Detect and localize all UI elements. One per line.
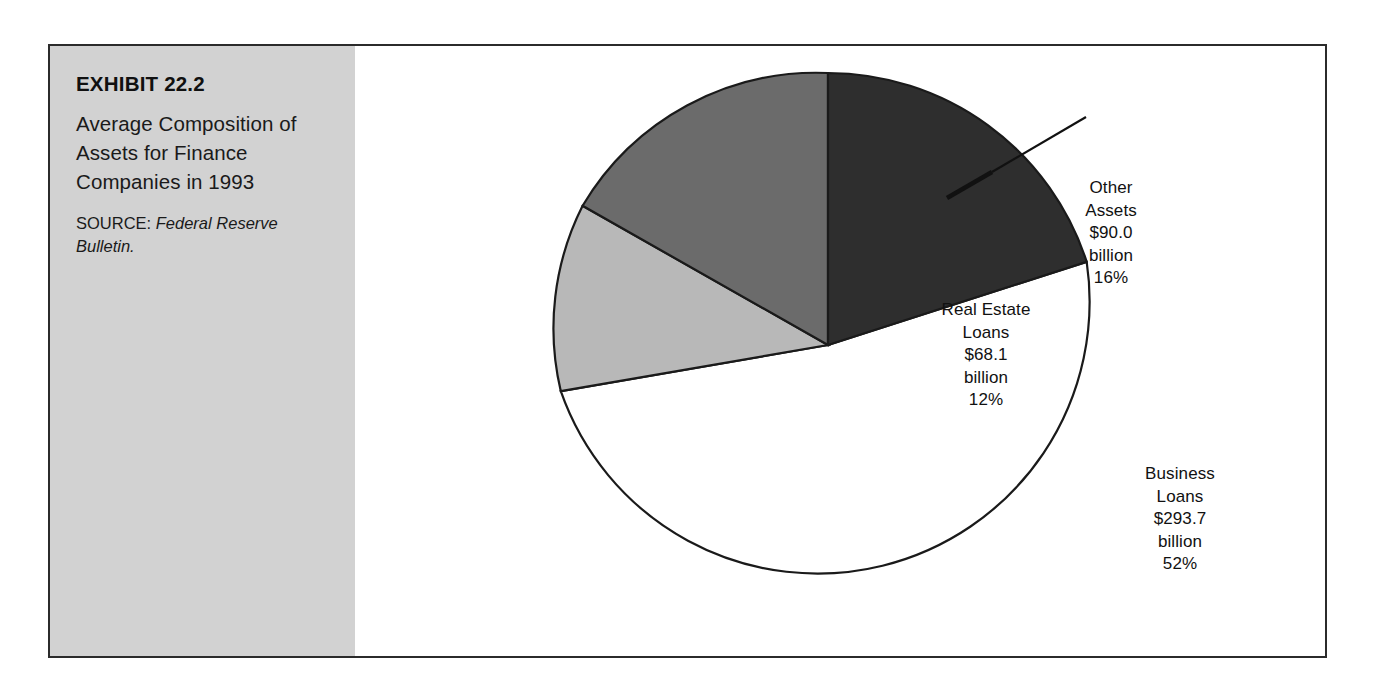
- caption-panel: EXHIBIT 22.2 Average Composition of Asse…: [50, 46, 355, 656]
- pie-label-business-loans-line2: Loans: [1085, 486, 1275, 509]
- exhibit-source-label: SOURCE:: [76, 214, 156, 232]
- pie-label-real-estate-loans-percent: 12%: [906, 389, 1066, 412]
- pie-label-business-loans: Business Loans $293.7 billion 52%: [1085, 463, 1275, 576]
- pie-label-real-estate-loans-line1: Real Estate: [906, 299, 1066, 322]
- exhibit-source: SOURCE: Federal Reserve Bulletin.: [76, 212, 333, 258]
- pie-label-real-estate-loans-line2: Loans: [906, 322, 1066, 345]
- exhibit-title: Average Composition of Assets for Financ…: [76, 109, 333, 196]
- pie-chart-area: Consumer Loans $111.9 billion 20% Other …: [355, 46, 1325, 656]
- pie-label-other-assets-amount: $90.0: [1047, 222, 1175, 245]
- pie-label-other-assets-line2: Assets: [1047, 200, 1175, 223]
- pie-label-business-loans-percent: 52%: [1085, 553, 1275, 576]
- pie-label-real-estate-loans-unit: billion: [906, 367, 1066, 390]
- exhibit-root: EXHIBIT 22.2 Average Composition of Asse…: [0, 0, 1373, 695]
- pie-label-business-loans-amount: $293.7: [1085, 508, 1275, 531]
- pie-label-real-estate-loans: Real Estate Loans $68.1 billion 12%: [906, 299, 1066, 412]
- pie-label-real-estate-loans-amount: $68.1: [906, 344, 1066, 367]
- pie-label-business-loans-unit: billion: [1085, 531, 1275, 554]
- pie-label-business-loans-line1: Business: [1085, 463, 1275, 486]
- pie-label-other-assets-unit: billion: [1047, 245, 1175, 268]
- pie-label-other-assets: Other Assets $90.0 billion 16%: [1047, 177, 1175, 290]
- exhibit-number: EXHIBIT 22.2: [76, 72, 333, 96]
- pie-label-other-assets-line1: Other: [1047, 177, 1175, 200]
- exhibit-frame: EXHIBIT 22.2 Average Composition of Asse…: [48, 44, 1327, 658]
- pie-label-other-assets-percent: 16%: [1047, 267, 1175, 290]
